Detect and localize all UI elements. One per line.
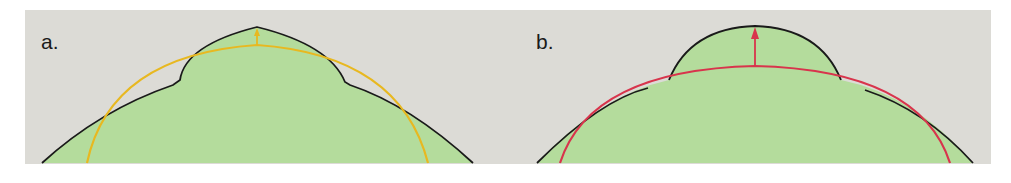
panel-b-label: b. — [536, 30, 554, 54]
figure-canvas — [0, 0, 1011, 183]
panel-b — [537, 26, 973, 163]
panel-b-green-shape — [537, 71, 973, 163]
panel-a-label: a. — [41, 30, 59, 54]
panel-a-green-shape — [42, 27, 473, 163]
panel-a — [42, 27, 473, 163]
